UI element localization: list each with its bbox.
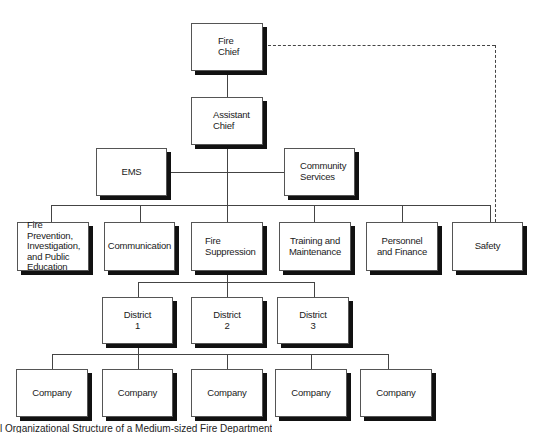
connector-district1-trunk bbox=[138, 344, 139, 369]
node-district-2: District 2 bbox=[191, 297, 263, 344]
node-label: Company bbox=[32, 388, 71, 399]
connector-to-company-1 bbox=[52, 354, 53, 369]
connector-assistant-trunk bbox=[227, 145, 228, 222]
node-label: Company bbox=[207, 388, 246, 399]
node-label: Company bbox=[118, 388, 157, 399]
dashed-connector-chief-to-safety-horizontal bbox=[263, 45, 495, 46]
connector-to-communication bbox=[140, 205, 141, 222]
connector-to-district-3 bbox=[314, 282, 315, 297]
node-personnel-finance: Personnel and Finance bbox=[366, 222, 438, 271]
node-assistant-chief: Assistant Chief bbox=[191, 97, 263, 145]
node-district-3: District 3 bbox=[277, 297, 349, 344]
connector-chief-to-assistant bbox=[227, 71, 228, 97]
node-label: Fire Prevention, Investigation, and Publ… bbox=[27, 220, 88, 273]
connector-to-training bbox=[314, 205, 315, 222]
connector-to-district-1 bbox=[138, 282, 139, 297]
node-label: Communication bbox=[108, 241, 171, 252]
node-label: Fire Suppression bbox=[205, 236, 256, 257]
node-training-maintenance: Training and Maintenance bbox=[279, 222, 351, 271]
connector-suppression-trunk bbox=[227, 271, 228, 297]
node-label: Safety bbox=[475, 241, 501, 252]
node-label: EMS bbox=[122, 167, 142, 178]
connector-to-company-5 bbox=[388, 354, 389, 369]
node-company-5: Company bbox=[360, 369, 432, 417]
connector-to-personnel bbox=[402, 205, 403, 222]
node-label: Community Services bbox=[300, 161, 346, 182]
node-label: Fire Chief bbox=[218, 36, 239, 57]
node-label: Training and Maintenance bbox=[289, 236, 341, 257]
node-company-1: Company bbox=[16, 369, 88, 417]
connector-to-company-4 bbox=[311, 354, 312, 369]
connector-to-safety bbox=[490, 205, 491, 222]
node-label: District 2 bbox=[213, 310, 240, 331]
connector-staff-line bbox=[167, 172, 284, 173]
org-chart: Fire Chief Assistant Chief EMS Community… bbox=[0, 0, 538, 433]
node-label: Company bbox=[291, 388, 330, 399]
node-safety: Safety bbox=[452, 222, 523, 271]
node-ems: EMS bbox=[96, 148, 167, 196]
connector-to-company-3 bbox=[227, 354, 228, 369]
dashed-connector-chief-to-safety-vertical bbox=[495, 45, 496, 222]
node-company-4: Company bbox=[275, 369, 347, 417]
node-fire-suppression: Fire Suppression bbox=[191, 222, 263, 271]
node-fire-prevention: Fire Prevention, Investigation, and Publ… bbox=[17, 222, 89, 271]
node-label: Assistant Chief bbox=[213, 110, 250, 131]
node-communication: Communication bbox=[104, 222, 175, 271]
connector-division-bus bbox=[51, 205, 490, 206]
node-label: Personnel and Finance bbox=[377, 236, 427, 257]
node-label: Company bbox=[376, 388, 415, 399]
figure-caption: l Organizational Structure of a Medium-s… bbox=[0, 424, 272, 433]
node-fire-chief: Fire Chief bbox=[191, 23, 263, 71]
node-company-2: Company bbox=[102, 369, 173, 417]
node-label: District 3 bbox=[299, 310, 326, 331]
node-district-1: District 1 bbox=[102, 297, 173, 344]
connector-district-bus bbox=[138, 282, 314, 283]
node-company-3: Company bbox=[191, 369, 263, 417]
node-community-services: Community Services bbox=[284, 148, 355, 196]
connector-company-bus bbox=[52, 354, 388, 355]
node-label: District 1 bbox=[124, 310, 151, 331]
